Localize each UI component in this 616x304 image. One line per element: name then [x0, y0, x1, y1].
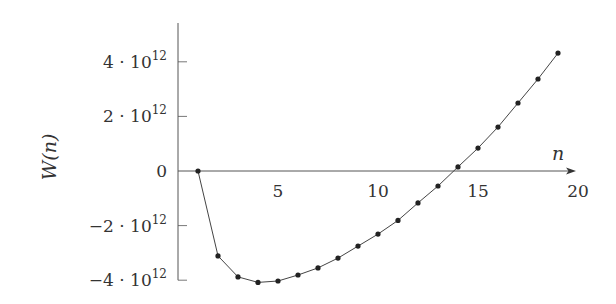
data-point-marker	[535, 76, 540, 81]
x-axis-label: n	[552, 142, 564, 164]
series-line	[198, 53, 558, 282]
data-series	[195, 50, 560, 285]
data-point-marker	[475, 145, 480, 150]
data-point-marker	[495, 124, 500, 129]
y-tick-label: 2 · 1012	[103, 103, 167, 126]
data-point-marker	[355, 243, 360, 248]
x-tick-label: 10	[367, 181, 389, 201]
data-point-marker	[255, 280, 260, 285]
x-tick-label: 5	[273, 181, 284, 201]
y-tick-label: −4 · 1012	[89, 267, 167, 290]
data-point-marker	[275, 278, 280, 283]
data-point-marker	[515, 100, 520, 105]
data-point-marker	[295, 272, 300, 277]
y-tick-label: 4 · 1012	[103, 49, 167, 72]
data-point-marker	[315, 265, 320, 270]
x-tick-label: 20	[567, 181, 589, 201]
data-point-marker	[335, 255, 340, 260]
x-tick-label: 15	[467, 181, 489, 201]
data-point-marker	[415, 200, 420, 205]
data-point-marker	[375, 231, 380, 236]
y-axis: 4 · 10122 · 10120−2 · 1012−4 · 1012	[89, 23, 187, 290]
data-point-marker	[215, 253, 220, 258]
data-point-marker	[455, 164, 460, 169]
x-axis: 5101520	[178, 168, 589, 202]
line-chart: 4 · 10122 · 10120−2 · 1012−4 · 1012 5101…	[0, 0, 616, 304]
y-tick-label: −2 · 1012	[89, 213, 167, 236]
y-tick-label: 0	[156, 161, 167, 181]
data-point-marker	[235, 274, 240, 279]
data-point-marker	[435, 183, 440, 188]
y-axis-label: W(n)	[38, 134, 60, 181]
data-point-marker	[395, 218, 400, 223]
data-point-marker	[555, 50, 560, 55]
chart-container: 4 · 10122 · 10120−2 · 1012−4 · 1012 5101…	[0, 0, 616, 304]
data-point-marker	[195, 168, 200, 173]
